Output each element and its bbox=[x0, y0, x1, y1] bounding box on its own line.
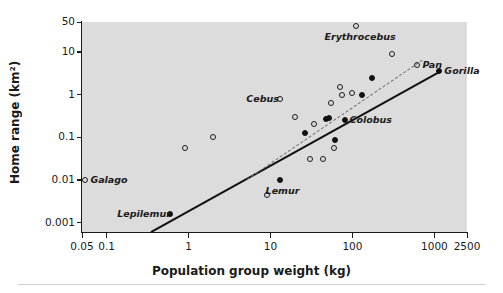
data-point bbox=[389, 51, 395, 57]
x-tick-mark bbox=[270, 233, 271, 238]
data-point bbox=[339, 92, 345, 98]
species-label: Galago bbox=[90, 174, 127, 185]
x-tick-mark bbox=[106, 233, 107, 238]
data-point bbox=[353, 23, 359, 29]
x-tick-mark bbox=[467, 233, 468, 238]
bottom-divider bbox=[18, 284, 485, 285]
home-range-scatter-figure: 501010.10.010.0010.050.111010010002500 G… bbox=[0, 0, 503, 293]
y-tick-mark bbox=[77, 94, 82, 95]
species-label: Lepilemur bbox=[117, 208, 171, 219]
x-tick-label: 0.1 bbox=[82, 240, 132, 252]
y-tick-label: 0.01 bbox=[30, 173, 75, 185]
x-tick-label: 10 bbox=[246, 240, 296, 252]
species-label: Gorilla bbox=[444, 65, 479, 76]
x-tick-label: 2500 bbox=[442, 240, 492, 252]
x-tick-label: 1 bbox=[164, 240, 214, 252]
y-tick-label: 0.1 bbox=[30, 130, 75, 142]
species-label: Lemur bbox=[266, 185, 300, 196]
y-tick-mark bbox=[77, 222, 82, 223]
y-tick-mark bbox=[77, 137, 82, 138]
data-point bbox=[359, 92, 365, 98]
species-label: Erythrocebus bbox=[324, 31, 395, 42]
y-tick-mark bbox=[77, 22, 82, 23]
x-tick-mark bbox=[434, 233, 435, 238]
data-point bbox=[302, 130, 308, 136]
species-label: Colobus bbox=[350, 114, 393, 125]
y-tick-mark bbox=[77, 179, 82, 180]
y-tick-mark bbox=[77, 51, 82, 52]
y-tick-label: 50 bbox=[30, 15, 75, 27]
data-point bbox=[182, 145, 188, 151]
species-label: Cebus bbox=[246, 93, 279, 104]
x-axis-title: Population group weight (kg) bbox=[0, 264, 503, 278]
y-axis-line bbox=[81, 21, 82, 233]
x-tick-mark bbox=[82, 233, 83, 238]
x-tick-mark bbox=[188, 233, 189, 238]
y-tick-label: 10 bbox=[30, 45, 75, 57]
y-tick-label: 1 bbox=[30, 88, 75, 100]
plot-area bbox=[82, 22, 467, 232]
x-tick-label: 100 bbox=[327, 240, 377, 252]
data-point bbox=[337, 84, 343, 90]
x-axis-line bbox=[81, 232, 468, 233]
y-axis-title: Home range (km²) bbox=[8, 42, 26, 202]
x-tick-mark bbox=[352, 233, 353, 238]
species-label: Pan bbox=[422, 59, 442, 70]
y-tick-label: 0.001 bbox=[30, 216, 75, 228]
